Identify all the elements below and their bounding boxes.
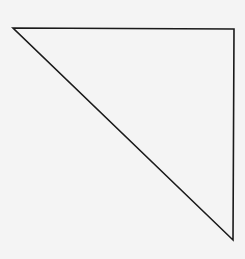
triangle-shape [13,28,234,240]
diagram-canvas [0,0,245,259]
